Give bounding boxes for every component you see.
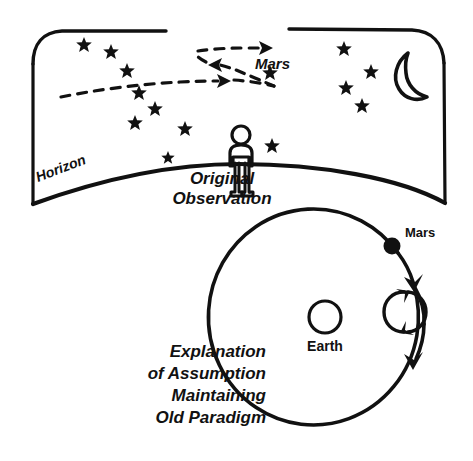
diagram-canvas: Mars Horizon Original Observation	[0, 0, 473, 461]
star-icon	[103, 44, 119, 59]
orbit-mars-label: Mars	[405, 225, 435, 240]
night-sky-observation-panel: Mars Horizon Original Observation	[33, 29, 445, 208]
star-icon	[119, 63, 135, 78]
star-icon	[127, 115, 143, 130]
orbit-arrow-upper	[404, 274, 423, 292]
horizon-label: Horizon	[33, 151, 87, 185]
sky-mars-label: Mars	[255, 55, 290, 72]
mars-travel-arc	[398, 253, 413, 282]
crescent-moon-icon	[396, 53, 427, 99]
retrograde-path-upper-east	[198, 48, 260, 51]
star-icon	[161, 151, 174, 164]
star-icon	[76, 37, 92, 52]
mars-body-marker	[384, 238, 401, 255]
star-field	[76, 37, 379, 164]
sky-caption-line-1: Original	[190, 169, 256, 188]
star-icon	[354, 98, 370, 113]
star-icon	[147, 101, 163, 116]
sky-caption-line-2: Observation	[172, 189, 271, 208]
orbit-caption-line-1: Explanation	[170, 342, 266, 361]
star-icon	[264, 138, 280, 153]
retrograde-path-westward-tail	[196, 55, 206, 62]
orbit-caption-line-4: Old Paradigm	[155, 408, 266, 427]
retrograde-arrow-east-upper	[259, 41, 273, 55]
star-icon	[363, 64, 379, 79]
sky-frame-top-right	[289, 29, 444, 63]
star-icon	[338, 80, 354, 95]
orbit-caption-line-2: of Assumption	[148, 364, 266, 383]
star-icon	[177, 121, 193, 136]
star-icon	[336, 41, 352, 56]
earth-circle	[309, 301, 341, 333]
epicycle-explanation-panel: Mars Earth Explanation of Assumption Mai…	[148, 209, 436, 427]
observer-head	[232, 126, 250, 144]
epicycle-left-arc	[384, 292, 404, 332]
earth-label: Earth	[307, 338, 343, 354]
sky-frame-right-wall	[444, 63, 445, 203]
figure-root: Mars Horizon Original Observation	[0, 0, 473, 461]
sky-frame-top-left	[33, 31, 166, 64]
orbit-caption-line-3: Maintaining	[172, 386, 267, 405]
